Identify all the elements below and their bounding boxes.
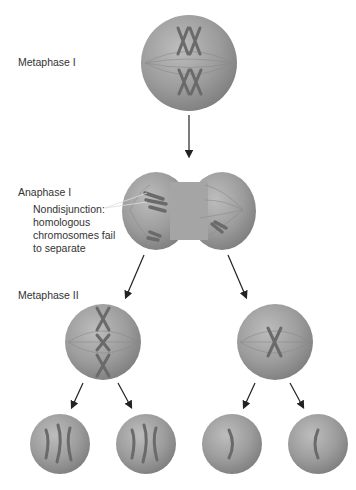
arrow [118, 383, 131, 407]
daughter-cell-4 [288, 414, 348, 474]
metaphase2-cell-right [237, 304, 313, 380]
anaphase1-label: Anaphase I [18, 186, 71, 199]
nondisjunction-label-line3: chromosomes fail [33, 229, 115, 242]
metaphase1-cell [141, 15, 237, 111]
daughter-cell-3 [202, 414, 262, 474]
metaphase1-label: Metaphase I [18, 56, 76, 69]
arrow [244, 383, 255, 407]
arrow-left [126, 255, 144, 297]
arrow-right [228, 255, 246, 297]
anaphase1-cell [105, 172, 256, 250]
arrow [72, 383, 83, 407]
nondisjunction-label-line2: homologous [33, 216, 90, 229]
daughter-cell-1 [30, 414, 90, 474]
arrow [290, 383, 303, 407]
nondisjunction-label-line4: to separate [33, 242, 86, 255]
nondisjunction-label-line1: Nondisjunction: [33, 203, 105, 216]
daughter-cell-2 [116, 414, 176, 474]
metaphase2-label: Metaphase II [18, 289, 79, 302]
metaphase2-cell-left [65, 304, 141, 380]
